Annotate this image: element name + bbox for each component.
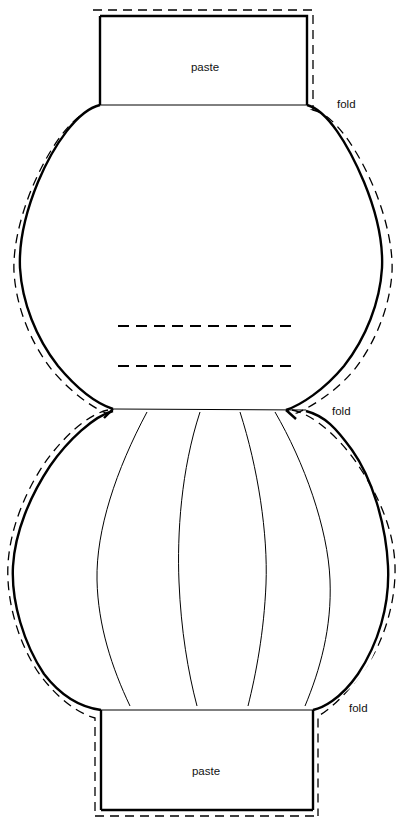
upper-balloon-fill [20, 105, 380, 410]
lantern-pattern-svg: paste fold fold fold paste [0, 0, 403, 827]
bottom-tab-fill [101, 709, 313, 810]
lower-balloon-fill [13, 411, 389, 710]
label-fold-bottom: fold [349, 702, 368, 714]
label-fold-middle: fold [332, 405, 351, 417]
label-fold-top: fold [337, 98, 356, 110]
lantern-template-page: paste fold fold fold paste [0, 0, 403, 827]
label-paste-top: paste [191, 61, 219, 73]
label-paste-bottom: paste [192, 765, 220, 777]
